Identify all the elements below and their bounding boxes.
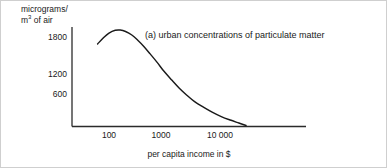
plot-area: micrograms/ m3 of air (a) urban concentr… — [1, 1, 387, 168]
data-series-line — [98, 30, 246, 126]
chart-svg — [1, 1, 387, 168]
chart-figure: micrograms/ m3 of air (a) urban concentr… — [0, 0, 387, 168]
